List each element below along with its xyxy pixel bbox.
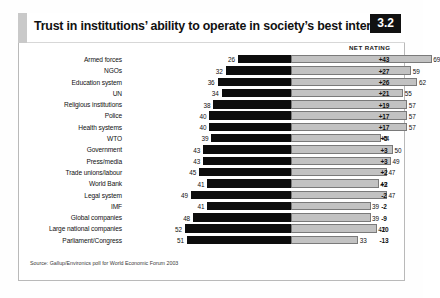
net-rating-value: +5 bbox=[367, 135, 401, 142]
trust-value: 55 bbox=[405, 90, 412, 97]
chart-row: Global companies4839-9 bbox=[18, 213, 405, 224]
chart-row: Police4057+17 bbox=[18, 111, 405, 122]
trust-bar bbox=[291, 236, 358, 244]
net-rating-value: -10 bbox=[367, 226, 401, 233]
distrust-value: 40 bbox=[195, 124, 206, 131]
title-accent-tab bbox=[18, 13, 27, 43]
net-rating-value: +17 bbox=[367, 124, 401, 131]
chart-row: Trade unions/labour4547+2 bbox=[18, 168, 405, 179]
chart-row: NGOs3259+27 bbox=[18, 66, 405, 77]
category-label: Large national companies bbox=[49, 225, 122, 232]
distrust-bar bbox=[209, 123, 291, 131]
net-rating-value: +2 bbox=[367, 169, 401, 176]
trust-bar bbox=[291, 55, 432, 63]
trust-bar bbox=[291, 224, 377, 232]
chart-row: World Bank4143+2 bbox=[18, 179, 405, 190]
distrust-bar bbox=[199, 168, 291, 176]
trust-value: 57 bbox=[409, 124, 416, 131]
chart-row: Health systems4057+17 bbox=[18, 123, 405, 134]
distrust-value: 45 bbox=[185, 169, 196, 176]
net-rating-value: +19 bbox=[367, 102, 401, 109]
distrust-bar bbox=[238, 55, 291, 63]
net-rating-value: +43 bbox=[367, 56, 401, 63]
category-label: WTO bbox=[107, 135, 122, 142]
category-label: Religious institutions bbox=[64, 101, 122, 108]
category-label: NGOs bbox=[104, 67, 122, 74]
net-rating-value: +17 bbox=[367, 113, 401, 120]
trust-value: 57 bbox=[409, 102, 416, 109]
net-rating-value: -13 bbox=[367, 237, 401, 244]
distrust-value: 48 bbox=[179, 215, 190, 222]
distrust-value: 41 bbox=[193, 181, 204, 188]
chart-row: Large national companies5242-10 bbox=[18, 224, 405, 235]
chart-row: Legal system4947-2 bbox=[18, 191, 405, 202]
net-rating-value: -9 bbox=[367, 215, 401, 222]
distrust-bar bbox=[207, 179, 291, 187]
page-title: Trust in institutions’ ability to operat… bbox=[34, 19, 395, 33]
distrust-bar bbox=[185, 224, 291, 232]
figure-number-badge: 3.2 bbox=[370, 14, 401, 33]
chart-row: Press/media4349+3 bbox=[18, 157, 405, 168]
distrust-bar bbox=[187, 236, 291, 244]
trust-value: 33 bbox=[360, 237, 367, 244]
category-label: Global companies bbox=[71, 214, 122, 221]
category-label: Trade unions/labour bbox=[65, 169, 122, 176]
chart-row: UN3455+21 bbox=[18, 89, 405, 100]
chart-row: Education system3662+26 bbox=[18, 78, 405, 89]
category-label: Armed forces bbox=[84, 56, 122, 63]
distrust-value: 39 bbox=[197, 135, 208, 142]
distrust-bar bbox=[207, 202, 291, 210]
category-label: Government bbox=[87, 146, 122, 153]
distrust-bar bbox=[222, 89, 291, 97]
trust-bar bbox=[291, 202, 371, 210]
chart-row: WTO3944+5 bbox=[18, 134, 405, 145]
distrust-bar bbox=[193, 213, 291, 221]
figure-title-bar: Trust in institutions’ ability to operat… bbox=[18, 13, 405, 43]
net-rating-value: -2 bbox=[367, 192, 401, 199]
distrust-value: 32 bbox=[212, 68, 223, 75]
chart-row: Parliament/Congress5133-13 bbox=[18, 236, 405, 247]
distrust-value: 38 bbox=[199, 102, 210, 109]
distrust-value: 36 bbox=[204, 79, 215, 86]
net-rating-value: +26 bbox=[367, 79, 401, 86]
category-label: World Bank bbox=[89, 180, 122, 187]
distrust-value: 40 bbox=[195, 113, 206, 120]
category-label: Press/media bbox=[86, 158, 122, 165]
chart-row: IMF4139-2 bbox=[18, 202, 405, 213]
trust-value: 62 bbox=[419, 79, 426, 86]
distrust-bar bbox=[211, 134, 291, 142]
distrust-bar bbox=[213, 100, 291, 108]
chart-plot-area: Armed forces2669+43NGOs3259+27Education … bbox=[18, 55, 405, 251]
source-note: Source: Gallup/Environics poll for World… bbox=[30, 260, 178, 266]
distrust-value: 26 bbox=[224, 56, 235, 63]
net-rating-value: +21 bbox=[367, 90, 401, 97]
category-label: IMF bbox=[111, 203, 122, 210]
net-rating-column-header: NET RATING bbox=[349, 44, 390, 51]
net-rating-value: +2 bbox=[367, 181, 401, 188]
chart-row: Government4350+3 bbox=[18, 145, 405, 156]
trust-value: 69 bbox=[433, 56, 440, 63]
net-rating-value: +3 bbox=[367, 147, 401, 154]
chart-row: Armed forces2669+43 bbox=[18, 55, 405, 66]
net-rating-value: +3 bbox=[367, 158, 401, 165]
distrust-value: 52 bbox=[171, 226, 182, 233]
category-label: Parliament/Congress bbox=[62, 237, 122, 244]
net-rating-value: -2 bbox=[367, 203, 401, 210]
category-label: UN bbox=[113, 90, 122, 97]
distrust-value: 34 bbox=[208, 90, 219, 97]
category-label: Police bbox=[105, 112, 122, 119]
distrust-bar bbox=[218, 78, 291, 86]
distrust-bar bbox=[226, 66, 291, 74]
trust-value: 59 bbox=[413, 68, 420, 75]
distrust-value: 51 bbox=[173, 237, 184, 244]
distrust-value: 49 bbox=[177, 192, 188, 199]
distrust-bar bbox=[203, 145, 291, 153]
trust-bar bbox=[291, 179, 379, 187]
category-label: Legal system bbox=[84, 192, 122, 199]
category-label: Health systems bbox=[78, 124, 122, 131]
category-label: Education system bbox=[72, 79, 122, 86]
trust-value: 57 bbox=[409, 113, 416, 120]
distrust-value: 43 bbox=[189, 158, 200, 165]
chart-row: Religious institutions3857+19 bbox=[18, 100, 405, 111]
distrust-bar bbox=[209, 111, 291, 119]
